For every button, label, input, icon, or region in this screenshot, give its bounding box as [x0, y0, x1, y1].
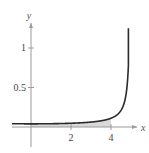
function-curve — [12, 28, 128, 124]
y-axis-label: y — [26, 10, 32, 21]
y-axis-arrow-icon — [29, 23, 33, 28]
axes — [12, 23, 137, 147]
function-graph: 240.51xy — [0, 0, 149, 153]
x-tick-label: 2 — [69, 132, 74, 143]
x-axis-label: x — [140, 122, 146, 133]
curve — [12, 28, 128, 124]
x-tick-label: 4 — [109, 132, 114, 143]
y-tick-label: 0.5 — [14, 82, 27, 93]
x-axis-arrow-icon — [132, 125, 137, 129]
y-tick-label: 1 — [21, 42, 26, 53]
